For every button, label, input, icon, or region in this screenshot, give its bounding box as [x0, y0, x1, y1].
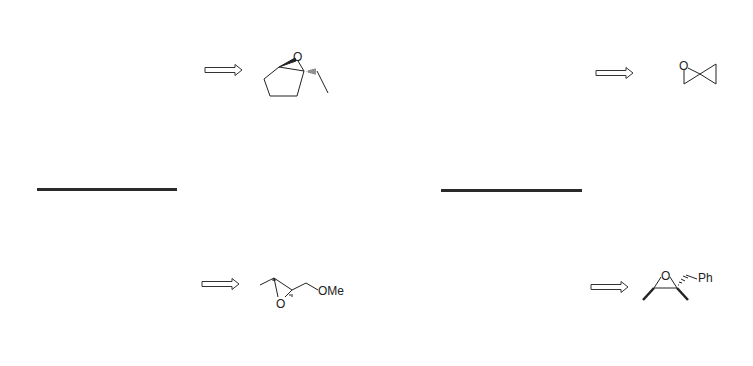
oxygen-label: O	[679, 59, 688, 73]
methoxy-epoxide-structure	[260, 278, 318, 297]
oxygen-label: O	[293, 50, 302, 64]
problem-1: O	[205, 50, 328, 96]
problem-4: O Ph	[591, 269, 713, 300]
methoxy-label: OMe	[318, 284, 344, 298]
problem-2: O	[596, 59, 716, 84]
retrosynthetic-arrow-icon	[202, 279, 239, 290]
phenyl-label: Ph	[698, 271, 713, 285]
spiro-oxirane-structure	[684, 64, 716, 84]
retrosynthetic-arrow-icon	[591, 282, 628, 293]
retrosynthetic-arrow-icon	[205, 65, 242, 76]
problem-3: O OMe	[202, 278, 344, 311]
retrosynthetic-arrow-icon	[596, 68, 633, 79]
reaction-scheme: O O	[0, 0, 753, 366]
oxygen-label: O	[276, 297, 285, 311]
oxygen-label: O	[661, 269, 670, 283]
